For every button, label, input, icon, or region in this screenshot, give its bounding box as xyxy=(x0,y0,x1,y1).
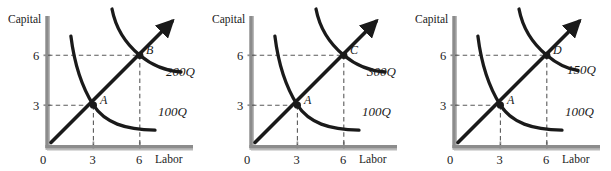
x-tick-label-6: 6 xyxy=(136,153,142,167)
curve-label-upper: 200Q xyxy=(166,64,196,79)
point-label-C: C xyxy=(350,43,359,57)
point-marker-D xyxy=(543,52,550,59)
y-axis-label: Capital xyxy=(212,13,245,26)
point-label-A: A xyxy=(303,93,312,107)
y-tick-label-3: 3 xyxy=(440,99,446,113)
x-axis-label: Labor xyxy=(562,153,590,165)
point-label-B: B xyxy=(146,43,154,57)
y-axis-label: Capital xyxy=(8,13,41,26)
point-marker-C xyxy=(340,52,347,59)
expansion-path-ray xyxy=(255,22,376,143)
panel-c-svg: Capital Labor 6 3 0 3 6 A D 100Q 150Q xyxy=(407,0,611,171)
point-label-D: D xyxy=(552,43,562,57)
point-marker-A xyxy=(293,102,300,109)
y-tick-label-3: 3 xyxy=(33,99,39,113)
chart-panel-b: Capital Labor 6 3 0 3 6 A C 100Q 300Q xyxy=(204,0,408,171)
isoquant-upper-curve xyxy=(316,9,385,72)
curve-label-upper: 150Q xyxy=(567,62,597,77)
origin-label: 0 xyxy=(447,153,453,167)
isoquant-figure-row: Capital Labor 6 3 0 3 6 A B 100Q 200Q xyxy=(0,0,611,171)
point-label-A: A xyxy=(506,93,515,107)
curve-label-lower: 100Q xyxy=(362,104,392,119)
point-label-A: A xyxy=(99,93,108,107)
curve-label-upper: 300Q xyxy=(366,64,397,79)
panel-b-svg: Capital Labor 6 3 0 3 6 A C 100Q 300Q xyxy=(204,0,408,171)
point-marker-A xyxy=(90,102,97,109)
y-tick-label-3: 3 xyxy=(237,99,243,113)
y-tick-label-6: 6 xyxy=(237,49,243,63)
isoquant-upper-curve xyxy=(112,9,181,72)
x-axis-label: Labor xyxy=(155,153,183,165)
x-tick-label-6: 6 xyxy=(543,153,549,167)
origin-label: 0 xyxy=(244,153,250,167)
curve-label-lower: 100Q xyxy=(158,104,188,119)
point-marker-B xyxy=(136,52,143,59)
chart-panel-c: Capital Labor 6 3 0 3 6 A D 100Q 150Q xyxy=(407,0,611,171)
chart-panel-a: Capital Labor 6 3 0 3 6 A B 100Q 200Q xyxy=(0,0,204,171)
point-marker-A xyxy=(497,102,504,109)
x-tick-label-3: 3 xyxy=(90,153,96,167)
origin-label: 0 xyxy=(40,153,46,167)
x-tick-label-3: 3 xyxy=(293,153,299,167)
y-tick-label-6: 6 xyxy=(33,49,39,63)
y-axis-label: Capital xyxy=(415,13,448,26)
curve-label-lower: 100Q xyxy=(565,104,595,119)
x-tick-label-6: 6 xyxy=(340,153,346,167)
x-axis-label: Labor xyxy=(359,153,387,165)
expansion-path-ray xyxy=(458,22,579,143)
y-tick-label-6: 6 xyxy=(440,49,446,63)
expansion-path-ray xyxy=(51,22,172,143)
panel-a-svg: Capital Labor 6 3 0 3 6 A B 100Q 200Q xyxy=(0,0,204,171)
x-tick-label-3: 3 xyxy=(497,153,503,167)
